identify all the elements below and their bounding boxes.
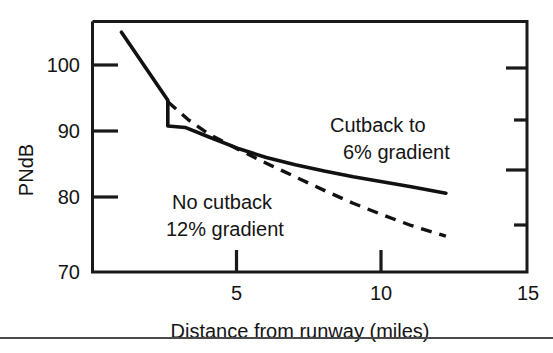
y-tick-label-70: 70: [58, 261, 80, 283]
x-axis-ticks: [237, 250, 382, 272]
annotation-cutback-line2: 6% gradient: [343, 141, 450, 163]
y-tick-label-80: 80: [58, 186, 80, 208]
annotation-nocutback-line2: 12% gradient: [166, 218, 284, 240]
right-axis-ticks: [506, 68, 527, 225]
y-tick-label-100: 100: [47, 54, 80, 76]
x-tick-label-5: 5: [231, 282, 242, 304]
x-tick-label-15: 15: [517, 282, 539, 304]
plot-frame: [93, 22, 528, 273]
series-cutback: [121, 32, 445, 193]
y-axis-title: PNdB: [15, 144, 37, 196]
annotation-cutback-line1: Cutback to: [330, 114, 426, 136]
x-tick-label-10: 10: [370, 282, 392, 304]
y-axis-ticks: [93, 65, 118, 197]
figure-container: 100 90 80 70 5 10 15 PNdB Distance from …: [0, 0, 553, 353]
y-tick-label-90: 90: [58, 120, 80, 142]
annotation-nocutback-line1: No cutback: [172, 191, 273, 213]
pndb-distance-chart: 100 90 80 70 5 10 15 PNdB Distance from …: [0, 0, 553, 353]
footer-divider: [0, 337, 553, 339]
